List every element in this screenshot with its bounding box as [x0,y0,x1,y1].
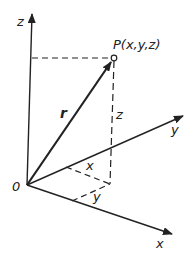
y-component-label: y [93,190,101,203]
z-axis-label: z [17,15,24,28]
coordinate-diagram [0,0,191,261]
y-component-dashed [72,184,110,201]
x-component-label: x [86,159,94,172]
z-component-label: z [116,108,123,121]
vertical-drop-dashed [110,61,114,184]
x-axis-label: x [156,237,164,250]
origin-label: 0 [12,180,20,193]
vector-r-label: r [60,106,67,120]
y-axis-label: y [171,123,179,136]
point-p-marker [111,55,117,61]
point-p-label: P(x,y,z) [113,38,160,51]
z-axis [27,14,32,185]
